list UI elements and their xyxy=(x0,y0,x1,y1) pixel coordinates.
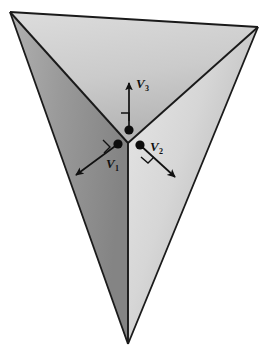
dot-top-icon xyxy=(124,125,133,134)
dot-left-icon xyxy=(113,139,122,148)
trihedral-vector-diagram: V 3 V 1 V 2 xyxy=(0,0,269,361)
solid-faces xyxy=(10,12,258,344)
vector-v2-subscript: 2 xyxy=(159,147,163,156)
vector-v1-subscript: 1 xyxy=(115,164,119,173)
figure-root: V 3 V 1 V 2 xyxy=(0,0,269,361)
dot-right-icon xyxy=(135,140,144,149)
vector-v3-subscript: 3 xyxy=(145,84,149,93)
